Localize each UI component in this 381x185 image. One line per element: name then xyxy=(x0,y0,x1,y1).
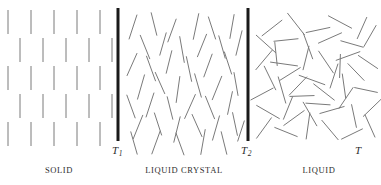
liquid-crystal-molecule-rod xyxy=(195,73,202,97)
liquid-crystal-molecule-rod xyxy=(127,95,136,119)
phase-label-liquid: LIQUID xyxy=(272,166,366,175)
liquid-molecule-rod xyxy=(303,33,313,59)
liquid-crystal-molecule-rod xyxy=(238,121,245,142)
liquid-molecule-rod xyxy=(358,55,378,68)
liquid-crystal-molecule-rod xyxy=(146,93,154,118)
liquid-molecule-rod xyxy=(256,105,279,119)
tick-label-t2-symbol: T xyxy=(241,144,247,156)
tick-label-t1-subscript: 1 xyxy=(119,149,123,158)
liquid-crystal-molecule-rod xyxy=(131,131,138,154)
liquid-molecule-rod xyxy=(274,127,297,136)
liquid-crystal-phase-region xyxy=(127,12,245,155)
liquid-crystal-molecule-rod xyxy=(154,113,161,136)
liquid-molecule-rod xyxy=(287,13,304,35)
liquid-crystal-molecule-rod xyxy=(160,32,167,55)
phase-diagram-figure: T1 T2 T SOLID LIQUID CRYSTAL LIQUID xyxy=(0,0,381,185)
liquid-crystal-molecule-rod xyxy=(193,13,199,39)
liquid-molecule-rod xyxy=(270,62,298,66)
liquid-crystal-molecule-rod xyxy=(192,114,202,137)
liquid-crystal-molecule-rod xyxy=(166,50,172,73)
axis-variable-label: T xyxy=(355,145,361,156)
liquid-crystal-molecule-rod xyxy=(133,115,143,139)
liquid-crystal-molecule-rod xyxy=(201,129,206,155)
liquid-molecule-rod xyxy=(318,33,342,44)
liquid-molecule-rod xyxy=(328,16,352,29)
liquid-molecule-rod xyxy=(348,63,365,80)
liquid-molecule-rod xyxy=(336,52,360,61)
liquid-crystal-molecule-rod xyxy=(208,17,215,40)
liquid-molecule-rod xyxy=(279,67,300,80)
liquid-molecule-rod xyxy=(306,103,331,105)
liquid-molecule-rod xyxy=(264,66,276,90)
liquid-crystal-molecule-rod xyxy=(152,131,161,155)
transition-bar-T2 xyxy=(247,8,250,141)
tick-label-t2: T2 xyxy=(241,145,251,156)
liquid-molecule-rod xyxy=(322,120,339,140)
liquid-molecule-rod xyxy=(306,27,330,32)
liquid-molecule-rod xyxy=(251,88,274,100)
liquid-crystal-molecule-rod xyxy=(212,76,222,100)
transition-bar-T1 xyxy=(117,8,120,141)
liquid-crystal-molecule-rod xyxy=(176,133,184,156)
liquid-crystal-molecule-rod xyxy=(167,96,173,119)
liquid-molecule-rod xyxy=(363,99,381,116)
liquid-molecule-rod xyxy=(354,88,377,93)
liquid-crystal-molecule-rod xyxy=(236,30,242,55)
tick-label-t1: T1 xyxy=(112,145,122,156)
liquid-crystal-molecule-rod xyxy=(224,52,231,75)
liquid-molecule-rod xyxy=(340,54,341,78)
liquid-molecule-rod xyxy=(262,20,282,36)
transition-boundary-bars xyxy=(117,8,250,141)
liquid-molecule-rod xyxy=(256,50,273,70)
liquid-crystal-molecule-rod xyxy=(176,76,180,103)
liquid-molecule-rod xyxy=(365,115,375,138)
phase-label-solid: SOLID xyxy=(14,166,104,175)
liquid-crystal-molecule-rod xyxy=(212,116,219,141)
liquid-crystal-molecule-rod xyxy=(219,35,226,58)
liquid-phase-region xyxy=(251,13,381,140)
liquid-molecule-rod xyxy=(256,117,271,138)
liquid-crystal-molecule-rod xyxy=(168,19,177,43)
liquid-crystal-molecule-rod xyxy=(221,131,227,154)
liquid-molecule-rod xyxy=(313,84,334,101)
liquid-crystal-molecule-rod xyxy=(185,94,196,119)
liquid-crystal-molecule-rod xyxy=(230,14,234,39)
liquid-molecule-rod xyxy=(274,39,299,42)
liquid-crystal-molecule-rod xyxy=(197,34,206,57)
liquid-crystal-molecule-rod xyxy=(233,112,238,135)
liquid-crystal-molecule-rod xyxy=(155,72,165,94)
liquid-crystal-molecule-rod xyxy=(204,54,213,78)
phase-label-liquid-crystal: LIQUID CRYSTAL xyxy=(124,166,244,175)
liquid-crystal-molecule-rod xyxy=(129,15,137,40)
liquid-molecule-rod xyxy=(303,46,309,70)
liquid-molecule-rod xyxy=(330,64,338,89)
liquid-crystal-molecule-rod xyxy=(228,91,233,114)
liquid-molecule-rod xyxy=(278,77,286,104)
liquid-molecule-rod xyxy=(340,41,363,48)
liquid-molecule-rod xyxy=(341,129,363,140)
liquid-molecule-rod xyxy=(299,75,325,85)
liquid-molecule-rod xyxy=(320,106,345,113)
liquid-crystal-molecule-rod xyxy=(140,35,150,59)
liquid-molecule-rod xyxy=(306,113,310,140)
liquid-molecule-rod xyxy=(318,51,333,73)
liquid-molecule-rod xyxy=(352,104,357,127)
liquid-molecule-rod xyxy=(364,25,377,47)
liquid-crystal-molecule-rod xyxy=(127,53,137,76)
liquid-molecule-rod xyxy=(289,77,307,96)
tick-label-t2-subscript: 2 xyxy=(248,149,252,158)
liquid-molecule-rod xyxy=(342,74,345,99)
liquid-crystal-molecule-rod xyxy=(151,12,157,35)
solid-phase-region xyxy=(8,10,112,146)
liquid-molecule-rod xyxy=(290,96,315,97)
liquid-molecule-rod xyxy=(357,17,367,39)
liquid-crystal-molecule-rod xyxy=(186,56,191,81)
liquid-crystal-molecule-rod xyxy=(205,96,214,119)
liquid-molecule-rod xyxy=(256,35,276,53)
liquid-crystal-molecule-rod xyxy=(180,36,185,63)
liquid-crystal-molecule-rod xyxy=(146,56,155,81)
liquid-crystal-molecule-rod xyxy=(137,75,144,100)
liquid-crystal-molecule-rod xyxy=(234,72,238,96)
tick-label-t1-symbol: T xyxy=(112,144,118,156)
liquid-crystal-molecule-rod xyxy=(174,116,181,142)
